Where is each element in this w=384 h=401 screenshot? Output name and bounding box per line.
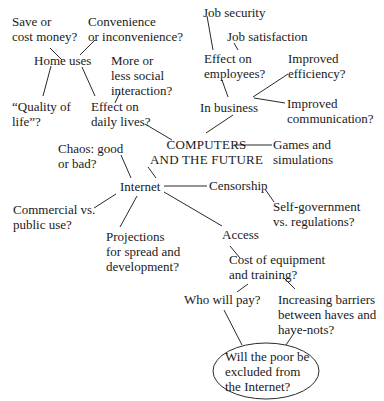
node-line: Increasing barriers	[278, 292, 376, 307]
node-quality-of-life: “Quality of life”?	[12, 99, 71, 129]
edge-internet-projections	[120, 196, 137, 227]
node-self-government: Self-government vs. regulations?	[273, 199, 360, 229]
node-line: More or	[111, 53, 172, 68]
node-line: for spread and	[106, 244, 180, 259]
node-improved-efficiency: Improved efficiency?	[288, 51, 346, 81]
center-line-1: COMPUTERS	[150, 137, 263, 152]
node-censorship: Censorship	[209, 178, 268, 193]
node-line: between haves and	[278, 307, 376, 322]
edge-employees-jobsecurity	[207, 16, 213, 50]
node-line: have-nots?	[278, 322, 376, 337]
node-line: Improved	[287, 96, 374, 111]
node-line: Home uses	[34, 53, 91, 68]
node-line: Commercial vs.	[13, 202, 95, 217]
node-line: Projections	[106, 229, 180, 244]
node-line: Censorship	[209, 178, 268, 193]
node-in-business: In business	[200, 100, 258, 115]
edge-business-center	[206, 115, 233, 133]
node-line: the Internet?	[225, 379, 309, 394]
center-node-computers-future: COMPUTERS AND THE FUTURE	[150, 137, 263, 167]
edge-business-communication	[254, 98, 285, 103]
node-line: Will the poor be	[225, 349, 309, 364]
edge-internet-commercial	[94, 194, 116, 208]
node-improved-communication: Improved communication?	[287, 96, 374, 126]
node-line: communication?	[287, 111, 374, 126]
node-line: interaction?	[111, 83, 172, 98]
node-line: Job satisfaction	[227, 29, 308, 44]
node-job-security: Job security	[203, 5, 265, 20]
node-line: Effect on	[91, 99, 151, 114]
node-line: Effect on	[204, 51, 265, 66]
node-line: Improved	[288, 51, 346, 66]
node-barriers: Increasing barriers between haves and ha…	[278, 292, 376, 337]
edge-employees-jobsatisfaction	[234, 43, 238, 50]
node-line: employees?	[204, 66, 265, 81]
node-line: life”?	[12, 114, 71, 129]
edge-internet-access	[164, 192, 222, 226]
node-line: simulations	[273, 152, 333, 167]
node-line: Internet	[120, 179, 160, 194]
node-convenience: Convenience or inconvenience?	[88, 14, 183, 44]
node-line: efficiency?	[288, 66, 346, 81]
node-line: or inconvenience?	[88, 29, 183, 44]
node-line: Access	[222, 227, 259, 242]
node-games: Games and simulations	[273, 137, 333, 167]
node-line: Cost of equipment	[229, 252, 325, 267]
edge-home-quality	[43, 66, 51, 96]
node-internet: Internet	[120, 179, 160, 194]
node-line: less social	[111, 68, 172, 83]
node-line: development?	[106, 259, 180, 274]
node-effect-employees: Effect on employees?	[204, 51, 265, 81]
node-line: Convenience	[88, 14, 183, 29]
node-cost-equipment: Cost of equipment and training?	[229, 252, 325, 282]
node-access: Access	[222, 227, 259, 242]
edge-cost-whopay	[237, 284, 248, 292]
edge-whopay-poor	[224, 310, 242, 345]
node-chaos: Chaos: good or bad?	[58, 141, 123, 171]
node-line: “Quality of	[12, 99, 71, 114]
node-projections: Projections for spread and development?	[106, 229, 180, 274]
cluster-diagram: COMPUTERS AND THE FUTURE Save or cost mo…	[0, 0, 384, 401]
center-line-2: AND THE FUTURE	[150, 152, 263, 167]
node-line: daily lives?	[91, 114, 151, 129]
node-line: or bad?	[58, 156, 123, 171]
node-line: Self-government	[273, 199, 360, 214]
node-line: excluded from	[225, 364, 309, 379]
node-social-interaction: More or less social interaction?	[111, 53, 172, 98]
node-job-satisfaction: Job satisfaction	[227, 29, 308, 44]
edge-center-internet	[148, 167, 156, 178]
node-home-uses: Home uses	[34, 53, 91, 68]
node-daily-lives: Effect on daily lives?	[91, 99, 151, 129]
node-line: and training?	[229, 267, 325, 282]
edge-home-daily	[82, 67, 95, 96]
node-line: public use?	[13, 217, 95, 232]
node-commercial: Commercial vs. public use?	[13, 202, 95, 232]
node-line: cost money?	[12, 29, 77, 44]
node-who-will-pay: Who will pay?	[184, 292, 261, 307]
node-line: Job security	[203, 5, 265, 20]
edge-business-employees	[222, 80, 228, 97]
node-save-money: Save or cost money?	[12, 14, 77, 44]
node-line: In business	[200, 100, 258, 115]
node-line: Chaos: good	[58, 141, 123, 156]
node-line: Save or	[12, 14, 77, 29]
node-line: Who will pay?	[184, 292, 261, 307]
node-line: vs. regulations?	[273, 214, 360, 229]
node-poor-excluded: Will the poor be excluded from the Inter…	[225, 349, 309, 394]
node-line: Games and	[273, 137, 333, 152]
